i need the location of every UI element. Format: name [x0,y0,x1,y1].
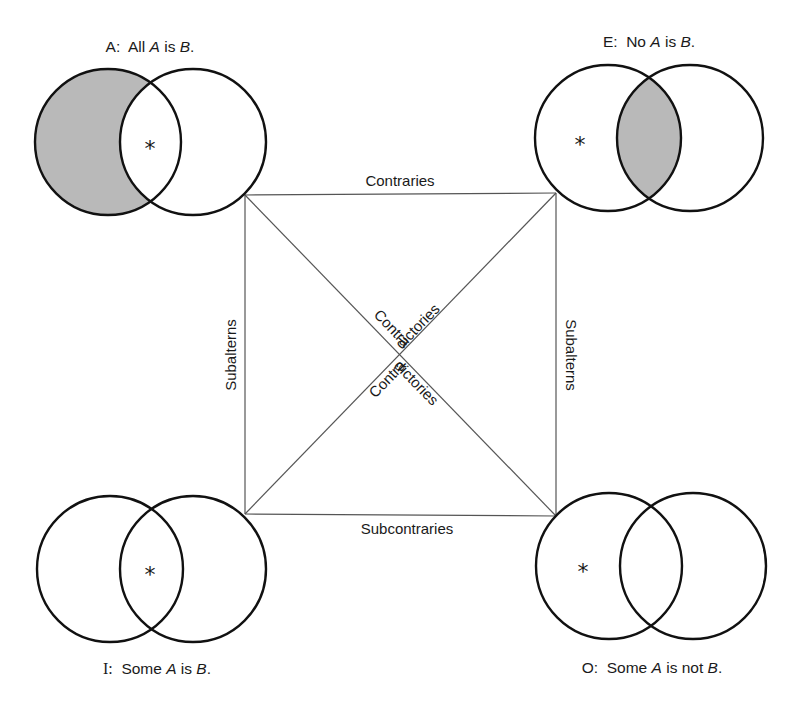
subcontraries-label: Subcontraries [361,520,454,537]
venn-o-circle-a [536,493,682,639]
contraries-label: Contraries [365,172,434,189]
diagonal-a-to-o [245,195,556,516]
contradictories-lower-dictories: dictories [391,357,442,409]
right-subalterns-label: Subalterns [563,319,580,391]
venn-o-particular-negative: * [536,493,766,639]
square [245,193,556,516]
square-of-opposition-diagram: Contraries Subcontraries Subalterns Suba… [0,0,796,705]
o-proposition-label: O: Some A is not B. [582,659,722,676]
venn-o-circle-b [620,493,766,639]
venn-e-universal-negative: * [535,65,763,211]
subcontraries-edge [245,514,556,516]
e-proposition-label: E: No A is B. [603,33,695,50]
i-proposition-label: I: Some A is B. [103,660,211,677]
diagonal-i-to-e [245,193,556,514]
asterisk-icon: * [145,562,156,587]
asterisk-icon: * [578,559,589,584]
asterisk-icon: * [145,136,156,161]
contraries-edge [245,193,556,195]
venn-i-circle-a [37,496,183,642]
venn-i-particular-affirmative: * [37,496,266,642]
a-proposition-label: A: All A is B. [106,38,195,55]
venn-i-circle-b [120,496,266,642]
left-subalterns-label: Subalterns [222,319,239,391]
asterisk-icon: * [575,132,586,157]
venn-a-universal-affirmative: * [35,69,266,215]
